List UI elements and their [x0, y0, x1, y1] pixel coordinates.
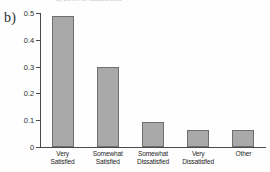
y-tick-label: 0.5: [24, 9, 34, 18]
panel-label: b): [4, 10, 16, 26]
bar: [232, 130, 254, 147]
bar-series: [40, 13, 266, 147]
cut-off-caption: a) Level of Satisfaction: [56, 0, 178, 4]
bar: [52, 16, 74, 147]
x-tick-label: Other: [217, 150, 270, 158]
figure-panel: a) Level of Satisfaction b) 00.10.20.30.…: [0, 0, 270, 172]
y-tick-label: 0: [30, 143, 34, 152]
y-tick-mark: [36, 147, 41, 148]
x-axis-line: [40, 147, 266, 148]
y-tick-label: 0.4: [24, 35, 34, 44]
y-tick-label: 0.1: [24, 116, 34, 125]
bar-chart-plot-area: 00.10.20.30.40.5 VerySatisfiedSomewhatSa…: [40, 13, 266, 147]
bar: [187, 130, 209, 147]
bar: [97, 67, 119, 147]
y-tick-label: 0.2: [24, 89, 34, 98]
bar: [142, 122, 164, 147]
y-tick-label: 0.3: [24, 62, 34, 71]
